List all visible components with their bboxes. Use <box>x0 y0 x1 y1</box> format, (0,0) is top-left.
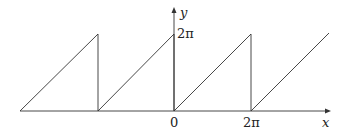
y-axis-label: y <box>179 5 188 20</box>
sawtooth-tooth-3 <box>174 34 251 111</box>
x-axis-label: x <box>322 115 330 130</box>
plot-canvas: y 2π 0 2π x <box>0 0 344 132</box>
x-tick-2pi: 2π <box>243 115 260 130</box>
y-axis-arrow-icon <box>172 7 177 13</box>
x-axis-arrow-icon <box>325 109 331 114</box>
sawtooth-diagram: y 2π 0 2π x <box>0 0 344 132</box>
y-tick-2pi: 2π <box>177 26 194 41</box>
sawtooth-tooth-4 <box>251 33 329 111</box>
sawtooth-tooth-2 <box>98 34 174 111</box>
sawtooth-tooth-1 <box>20 34 98 111</box>
x-tick-origin: 0 <box>170 115 178 130</box>
